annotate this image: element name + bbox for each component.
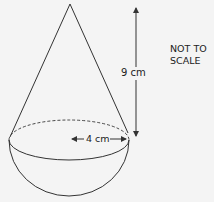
ellipse-front bbox=[9, 140, 129, 160]
note-line-1: NOT TO bbox=[170, 43, 207, 55]
note-line-2: SCALE bbox=[170, 55, 207, 67]
cone-hemisphere-diagram bbox=[0, 0, 214, 202]
radius-label: 4 cm bbox=[86, 133, 110, 144]
cone-left-edge bbox=[10, 4, 70, 137]
not-to-scale-note: NOT TO SCALE bbox=[170, 43, 207, 67]
ellipse-back-dashed bbox=[9, 120, 129, 140]
height-label: 9 cm bbox=[120, 67, 147, 78]
hemisphere-outline bbox=[9, 140, 129, 196]
